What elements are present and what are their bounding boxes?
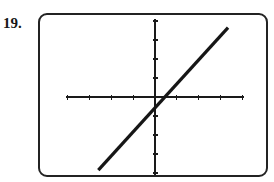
figure-root: 19. Graphing calculator screen showing t…: [0, 0, 274, 182]
graph-plot-area: [40, 15, 270, 179]
line-curve-group: [98, 28, 228, 171]
calculator-screen: [38, 13, 268, 177]
axes-group: [66, 19, 244, 175]
figure-caption: Graphing calculator screen showing the g…: [0, 0, 1, 1]
problem-number-label: 19.: [3, 15, 22, 32]
plotted-line: [98, 28, 228, 171]
